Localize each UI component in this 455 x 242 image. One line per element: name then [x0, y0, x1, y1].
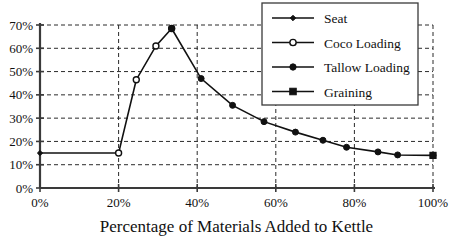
y-tick-label: 70% [9, 18, 33, 33]
x-tick-label: 40% [185, 195, 209, 210]
marker-filled-square [430, 152, 436, 158]
marker-filled-square [290, 88, 297, 95]
y-tick-label: 0% [16, 181, 34, 196]
legend-label: Coco Loading [324, 36, 401, 51]
series-graining [430, 152, 436, 158]
chart-container: 0%10%20%30%40%50%60%70%0%20%40%60%80%100… [0, 0, 455, 242]
y-tick-label: 50% [9, 64, 33, 79]
legend-label: Seat [324, 11, 347, 26]
marker-filled-circle [198, 76, 204, 82]
x-tick-label: 80% [342, 195, 366, 210]
marker-filled-circle [290, 64, 296, 70]
marker-filled-circle [395, 152, 401, 158]
x-tick-label: 0% [31, 195, 49, 210]
series-seat [37, 150, 121, 155]
marker-filled-circle [230, 102, 236, 108]
x-axis-title: Percentage of Materials Added to Kettle [100, 217, 373, 236]
legend-label: Graining [324, 85, 372, 100]
marker-open-circle [153, 43, 159, 49]
x-tick-label: 20% [107, 195, 131, 210]
marker-filled-circle [320, 137, 326, 143]
marker-filled-circle [261, 119, 267, 125]
marker-open-circle [116, 150, 122, 156]
marker-open-circle [290, 39, 296, 45]
x-tick-label: 60% [264, 195, 288, 210]
line-chart: 0%10%20%30%40%50%60%70%0%20%40%60%80%100… [0, 0, 455, 242]
marker-open-circle [133, 77, 139, 83]
y-tick-label: 20% [9, 134, 33, 149]
marker-filled-circle [375, 149, 381, 155]
series-line [119, 28, 172, 153]
marker-small-diamond [37, 150, 42, 155]
marker-filled-circle [169, 25, 175, 31]
y-tick-label: 60% [9, 41, 33, 56]
x-tick-label: 100% [418, 195, 449, 210]
y-tick-label: 40% [9, 87, 33, 102]
marker-filled-circle [344, 144, 350, 150]
series-coco-loading [116, 25, 175, 156]
y-tick-label: 30% [9, 111, 33, 126]
marker-filled-circle [292, 129, 298, 135]
legend-label: Tallow Loading [324, 60, 410, 75]
y-tick-label: 10% [9, 157, 33, 172]
legend: SeatCoco LoadingTallow LoadingGraining [262, 3, 418, 105]
